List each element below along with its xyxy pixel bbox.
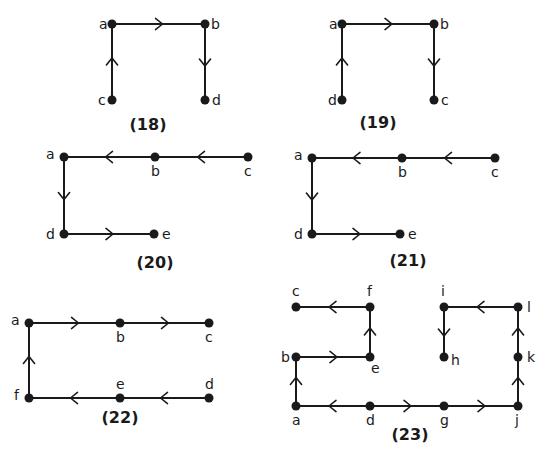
node-label: a: [292, 412, 301, 428]
figure-caption: (18): [130, 115, 167, 134]
node-c: [292, 303, 301, 312]
node-d: [308, 230, 317, 239]
node-b: [201, 20, 210, 29]
node-c: [244, 153, 253, 162]
node-label: d: [212, 92, 221, 108]
node-label: a: [99, 16, 108, 32]
node-c: [491, 154, 500, 163]
node-f: [366, 303, 375, 312]
diagram-22: abcfed(22): [11, 312, 214, 427]
figure-caption: (22): [102, 408, 139, 427]
node-e: [150, 230, 159, 239]
node-a: [108, 20, 117, 29]
node-label: i: [441, 283, 445, 299]
node-label: d: [294, 226, 303, 242]
node-label: e: [371, 360, 380, 376]
node-label: c: [205, 329, 213, 345]
node-label: h: [451, 352, 460, 368]
node-label: e: [162, 226, 171, 242]
node-label: b: [151, 163, 160, 179]
node-a: [25, 319, 34, 328]
node-label: e: [116, 376, 125, 392]
node-j: [514, 402, 523, 411]
node-label: k: [527, 349, 536, 365]
diagram-20: abcde(20): [46, 146, 253, 272]
node-label: a: [11, 312, 20, 328]
figure-caption: (19): [360, 113, 397, 132]
node-a: [60, 153, 69, 162]
node-e: [396, 230, 405, 239]
node-label: c: [98, 92, 106, 108]
node-label: a: [329, 16, 338, 32]
node-label: d: [205, 376, 214, 392]
directed-graph-figures: abcd(18)abdc(19)abcde(20)abcde(21)abcfed…: [0, 0, 545, 458]
figure-caption: (21): [390, 251, 427, 270]
node-b: [151, 153, 160, 162]
node-label: d: [328, 92, 337, 108]
node-label: c: [491, 164, 499, 180]
node-c: [205, 319, 214, 328]
node-label: b: [440, 16, 449, 32]
node-label: b: [281, 349, 290, 365]
node-e: [116, 394, 125, 403]
node-h: [440, 353, 449, 362]
node-label: e: [408, 226, 417, 242]
node-label: c: [441, 92, 449, 108]
node-b: [292, 353, 301, 362]
node-c: [430, 96, 439, 105]
node-f: [25, 394, 34, 403]
node-k: [514, 353, 523, 362]
node-a: [308, 154, 317, 163]
node-d: [366, 402, 375, 411]
node-label: j: [514, 412, 519, 428]
node-label: b: [211, 16, 220, 32]
node-a: [338, 20, 347, 29]
node-label: d: [366, 412, 375, 428]
node-label: f: [14, 387, 20, 403]
node-b: [430, 20, 439, 29]
node-label: b: [116, 329, 125, 345]
node-label: d: [46, 226, 55, 242]
figure-caption: (23): [392, 425, 429, 444]
node-l: [514, 303, 523, 312]
node-d: [201, 96, 210, 105]
node-a: [292, 402, 301, 411]
node-label: l: [527, 299, 531, 315]
node-b: [398, 154, 407, 163]
node-d: [205, 394, 214, 403]
node-d: [338, 96, 347, 105]
node-label: g: [440, 412, 449, 428]
diagram-18: abcd(18): [98, 16, 221, 134]
figure-caption: (20): [137, 253, 174, 272]
node-label: f: [367, 283, 373, 299]
node-i: [440, 303, 449, 312]
diagram-19: abdc(19): [328, 16, 449, 132]
node-b: [116, 319, 125, 328]
node-label: c: [292, 283, 300, 299]
node-d: [60, 230, 69, 239]
node-c: [108, 96, 117, 105]
node-label: a: [46, 146, 55, 162]
node-g: [440, 402, 449, 411]
node-label: b: [398, 164, 407, 180]
node-label: a: [294, 147, 303, 163]
diagram-23: cfilbehkadgj(23): [281, 283, 536, 444]
node-label: c: [244, 163, 252, 179]
diagram-21: abcde(21): [294, 147, 500, 270]
